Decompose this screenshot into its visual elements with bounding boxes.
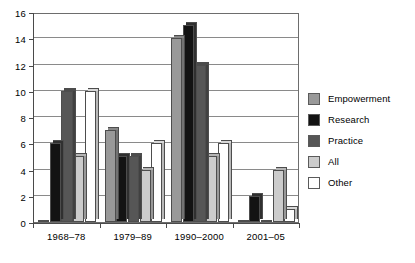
bar-side: [139, 153, 142, 219]
x-tick: [100, 223, 101, 228]
bar: [105, 130, 116, 222]
legend-label: Other: [328, 177, 352, 188]
bar-face: [273, 170, 284, 223]
bar-top: [276, 167, 287, 170]
x-tick: [233, 223, 234, 228]
bar-side: [194, 22, 197, 219]
bar: [50, 143, 61, 222]
legend-swatch-icon: [308, 156, 320, 168]
bar-face: [171, 38, 182, 222]
bar-face: [38, 220, 49, 222]
bar-side: [162, 140, 165, 219]
x-tick-label: 1990–2000: [175, 231, 224, 242]
bar-face: [238, 220, 249, 222]
bar-face: [105, 130, 116, 222]
bar-side: [116, 127, 119, 219]
bar: [38, 221, 49, 223]
bar-face: [249, 196, 260, 222]
bar-side: [229, 140, 232, 219]
y-tick: [29, 144, 33, 145]
bar-side: [206, 62, 209, 220]
bar-chart: 0246810121416 1968–781979–891990–2000200…: [0, 0, 415, 263]
bar-side: [96, 88, 99, 219]
bar-side: [61, 140, 64, 219]
bar-side: [73, 88, 76, 219]
bar-top: [197, 62, 208, 65]
y-tick: [29, 66, 33, 67]
x-tick: [166, 223, 167, 228]
plot-area: [33, 13, 299, 223]
bar-face: [50, 143, 61, 222]
y-tick: [29, 171, 33, 172]
x-tick-label: 1968–78: [47, 231, 85, 242]
legend-item-practice[interactable]: Practice: [308, 130, 413, 151]
bar-side: [260, 193, 263, 219]
y-tick: [29, 118, 33, 119]
y-tick-label: 4: [0, 165, 26, 176]
bar-top: [221, 140, 232, 143]
y-tick: [29, 39, 33, 40]
y-tick-label: 8: [0, 113, 26, 124]
x-tick-label: 1979–89: [114, 231, 152, 242]
legend-item-research[interactable]: Research: [308, 109, 413, 130]
y-axis: [33, 13, 34, 224]
bar: [273, 170, 284, 223]
bar: [171, 38, 182, 222]
legend-swatch-icon: [308, 135, 320, 147]
legend-swatch-icon: [308, 114, 320, 126]
chart-legend: EmpowermentResearchPracticeAllOther: [308, 88, 413, 193]
bar-top: [64, 88, 75, 91]
bar-top: [131, 153, 142, 156]
bar-top: [287, 206, 298, 209]
bar: [249, 196, 260, 222]
y-tick: [29, 92, 33, 93]
bar-side: [84, 153, 87, 219]
bar-top: [76, 153, 87, 156]
bar-top: [154, 140, 165, 143]
bar-top: [252, 193, 263, 196]
legend-label: Practice: [328, 135, 363, 146]
bar-side: [127, 153, 130, 219]
x-tick: [299, 223, 300, 228]
y-tick-label: 6: [0, 139, 26, 150]
bar-side: [182, 35, 185, 219]
legend-item-empowerment[interactable]: Empowerment: [308, 88, 413, 109]
bar: [238, 221, 249, 223]
y-tick-label: 2: [0, 191, 26, 202]
bar-top: [186, 22, 197, 25]
bar: [261, 221, 272, 223]
y-tick-label: 10: [0, 86, 26, 97]
legend-item-other[interactable]: Other: [308, 172, 413, 193]
y-tick: [29, 197, 33, 198]
x-tick-label: 2001–05: [247, 231, 285, 242]
bar-side: [217, 153, 220, 219]
bar-top: [53, 140, 64, 143]
legend-label: Empowerment: [328, 93, 390, 104]
y-tick-label: 14: [0, 34, 26, 45]
bar-top: [174, 35, 185, 38]
legend-label: Research: [328, 114, 369, 125]
bars-layer: [34, 14, 298, 222]
bar-top: [119, 153, 130, 156]
bar-top: [108, 127, 119, 130]
y-tick-label: 12: [0, 60, 26, 71]
legend-swatch-icon: [308, 93, 320, 105]
bar-face: [261, 220, 272, 222]
legend-swatch-icon: [308, 177, 320, 189]
bar-top: [209, 153, 220, 156]
y-tick-label: 16: [0, 8, 26, 19]
y-tick-label: 0: [0, 218, 26, 229]
legend-label: All: [328, 156, 339, 167]
y-tick: [29, 13, 33, 14]
x-tick: [33, 223, 34, 228]
legend-item-all[interactable]: All: [308, 151, 413, 172]
bar-side: [284, 167, 287, 220]
bar-top: [143, 167, 154, 170]
bar-side: [151, 167, 154, 220]
bar-top: [88, 88, 99, 91]
